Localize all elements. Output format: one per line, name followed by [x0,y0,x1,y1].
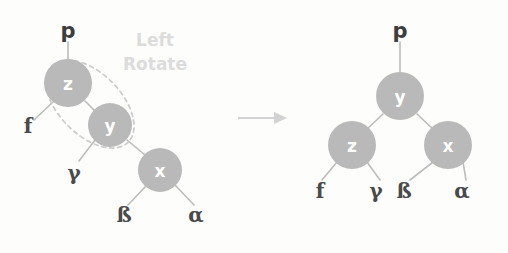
transform-arrow [238,112,287,124]
leaf-f-before: f [24,114,34,138]
leaf-alpha-before: α [188,203,203,227]
node-x-before-label: x [155,161,166,181]
leaf-f-after: f [316,179,326,203]
caption-line-1: Left [136,30,174,50]
node-y-before-label: y [104,116,115,136]
leaf-alpha-after: α [454,179,469,203]
edge-x-to-beta-after [410,162,433,180]
diagram-canvas: z y x p f γ ß α Left Rotate [0,0,508,253]
rotation-caption: Left Rotate [123,30,187,74]
after-tree: y z x p f γ ß α [316,19,472,203]
leaf-gamma-before: γ [67,161,81,185]
parent-label-after: p [392,19,407,43]
edge-x-to-alpha [175,185,194,205]
arrow-head-icon [274,112,287,124]
parent-label-before: p [60,19,75,43]
edge-z-to-f-after [322,162,337,180]
node-y-after-label: y [394,87,405,107]
edge-x-to-alpha-after [463,162,466,180]
leaf-beta-after: ß [396,179,411,203]
edge-y-to-x-after [417,114,433,129]
edge-z-to-gamma-after [367,162,380,180]
node-z-after-label: z [347,136,357,156]
leaf-gamma-after: γ [369,179,383,203]
edge-z-to-f [34,102,53,120]
edge-y-to-z-after [367,114,383,129]
node-z-before-label: z [63,74,73,94]
leaf-beta-before: ß [116,203,131,227]
edge-z-to-y [85,101,95,111]
rotation-diagram: z y x p f γ ß α Left Rotate [0,0,508,253]
edge-y-to-x [127,140,145,155]
caption-line-2: Rotate [123,54,187,74]
node-x-after-label: x [443,136,454,156]
edge-y-to-gamma [79,140,95,161]
before-tree: z y x p f γ ß α [24,19,204,227]
